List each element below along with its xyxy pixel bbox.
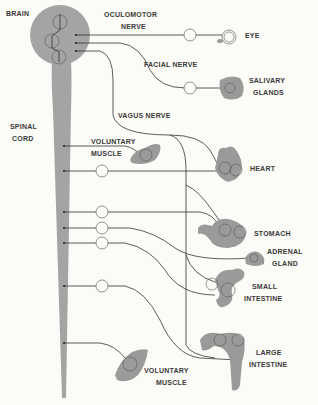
central-nervous-system	[30, 5, 90, 398]
oculomotor-ganglion	[184, 29, 196, 41]
stomach-label: STOMACH	[254, 230, 291, 237]
voluntary-muscle-lower-label-2: MUSCLE	[156, 379, 187, 386]
spinal-ganglion-heart	[96, 165, 108, 177]
large-intestine-organ	[200, 333, 245, 391]
adrenal-label-2: GLAND	[272, 260, 298, 267]
small-intestine-spinal-nerve	[64, 243, 215, 295]
large-intestine-spinal-nerve	[64, 286, 238, 360]
large-intestine-label-1: LARGE	[256, 349, 282, 356]
voluntary-muscle-upper-label-1: VOLUNTARY	[91, 138, 136, 145]
nervous-system-diagram: BRAIN SPINAL CORD OCULOMOTOR NERVE FACIA…	[0, 0, 318, 405]
spinal-ganglion-large-intestine	[96, 280, 108, 292]
salivary-label-2: GLANDS	[253, 89, 284, 96]
facial-nerve-label: FACIAL NERVE	[144, 61, 198, 68]
voluntary-muscle-upper-organ	[130, 144, 160, 164]
facial-ganglion	[184, 82, 196, 94]
salivary-glands-organ	[220, 76, 244, 99]
vagus-branch-trunk	[170, 135, 215, 358]
eye-organ	[217, 30, 236, 44]
eye-label: EYE	[245, 32, 260, 39]
small-intestine-organ	[206, 268, 244, 307]
adrenal-gland-organ	[245, 252, 264, 266]
salivary-label-1: SALIVARY	[249, 77, 285, 84]
spinal-ganglion-adrenal	[96, 222, 108, 234]
oculomotor-label-2: NERVE	[121, 23, 146, 30]
spinal-cord-label-2: CORD	[12, 135, 33, 142]
voluntary-muscle-lower-label-1: VOLUNTARY	[144, 367, 189, 374]
voluntary-muscle-lower-nerve	[64, 343, 125, 358]
heart-organ	[215, 146, 242, 182]
voluntary-muscle-upper-label-2: MUSCLE	[91, 150, 122, 157]
stomach-spinal-nerve	[64, 212, 220, 228]
small-intestine-label-1: SMALL	[252, 283, 278, 290]
labels: BRAIN SPINAL CORD OCULOMOTOR NERVE FACIA…	[6, 10, 303, 386]
spinal-ganglion-small-intestine	[96, 237, 108, 249]
spinal-cord-label-1: SPINAL	[10, 123, 37, 130]
large-intestine-label-2: INTESTINE	[249, 361, 287, 368]
voluntary-muscle-lower-organ	[115, 349, 148, 381]
heart-spinal-nerve	[64, 171, 226, 174]
vagus-nerve-label: VAGUS NERVE	[118, 112, 171, 119]
spinal-cord-shape	[52, 60, 72, 398]
spinal-ganglion-stomach	[96, 206, 108, 218]
adrenal-label-1: ADRENAL	[267, 248, 303, 255]
stomach-organ	[198, 219, 246, 248]
heart-label: HEART	[250, 165, 276, 172]
brain-label: BRAIN	[6, 10, 29, 17]
small-intestine-label-2: INTESTINE	[244, 295, 282, 302]
oculomotor-label-1: OCULOMOTOR	[104, 11, 157, 18]
